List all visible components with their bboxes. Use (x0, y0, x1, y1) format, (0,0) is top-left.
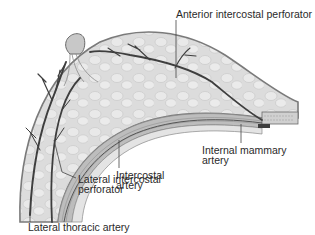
internal-mammary-artery-vessel (258, 124, 270, 128)
nipple (66, 34, 85, 54)
anatomy-illustration (0, 0, 315, 235)
sternum (262, 112, 298, 124)
label-lateral-intercostal-perforator: Lateral intercostal perforator (78, 174, 161, 194)
breast-artery-diagram: Anterior intercostal perforator Intercos… (0, 0, 315, 235)
label-lateral-thoracic-artery: Lateral thoracic artery (28, 222, 130, 232)
label-internal-mammary-artery: Internal mammary artery (202, 145, 287, 165)
label-anterior-intercostal-perforator: Anterior intercostal perforator (176, 9, 312, 19)
